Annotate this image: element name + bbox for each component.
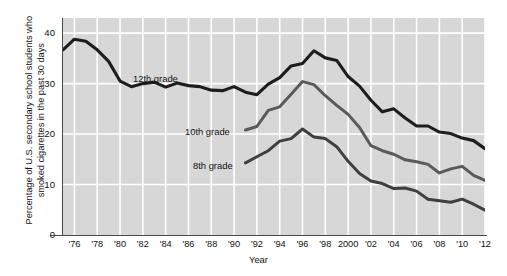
- x-axis-title-text: Year: [249, 254, 268, 265]
- x-axis-title: Year: [0, 254, 507, 265]
- series-line-12th-grade: [63, 39, 485, 149]
- y-tick-label: 20: [27, 129, 55, 139]
- plot-area: [63, 18, 485, 235]
- x-tick-label: '12: [467, 239, 503, 250]
- line-chart-figure: Percentage of U.S. secondary school stud…: [0, 0, 507, 276]
- series-line-10th-grade: [245, 82, 485, 181]
- series-label-12th-grade: 12th grade: [133, 73, 178, 84]
- y-tick-label: 0: [27, 230, 55, 240]
- y-tick-label: 30: [27, 79, 55, 89]
- y-tick-label: 10: [27, 180, 55, 190]
- plot-svg: [63, 18, 485, 235]
- y-axis-title: Percentage of U.S. secondary school stud…: [23, 13, 47, 228]
- x-axis-line: [50, 235, 487, 236]
- series-label-8th-grade: 8th grade: [193, 160, 233, 171]
- y-tick-label: 40: [27, 28, 55, 38]
- series-label-10th-grade: 10th grade: [185, 126, 230, 137]
- y-axis-line: [62, 18, 63, 236]
